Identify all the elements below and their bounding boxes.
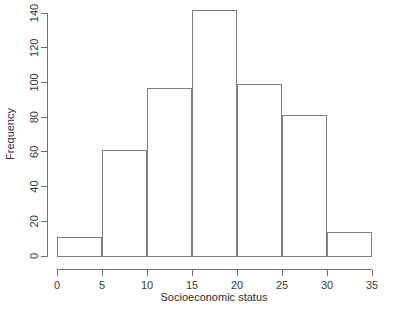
x-tick-label: 15 <box>186 279 198 291</box>
y-tick-label: 0 <box>28 253 40 259</box>
histogram-bars <box>57 10 372 256</box>
x-axis-tick-labels: 05101520253035 <box>54 279 378 291</box>
histogram-figure: 020406080100120140 Frequency 05101520253… <box>0 0 393 311</box>
x-axis-ticks <box>57 270 372 277</box>
x-tick-label: 30 <box>321 279 333 291</box>
y-tick-label: 120 <box>28 39 40 57</box>
x-tick-label: 5 <box>99 279 105 291</box>
histogram-bar <box>148 88 192 256</box>
x-axis-title: Socioeconomic status <box>161 291 268 303</box>
histogram-bar <box>238 85 282 256</box>
x-tick-label: 10 <box>141 279 153 291</box>
histogram-bar <box>58 237 102 256</box>
histogram-bar <box>103 151 147 256</box>
y-tick-label: 100 <box>28 73 40 91</box>
y-axis: 020406080100120140 Frequency <box>4 4 48 259</box>
y-tick-label: 40 <box>28 180 40 192</box>
x-tick-label: 20 <box>231 279 243 291</box>
y-tick-label: 20 <box>28 215 40 227</box>
histogram-bar <box>328 232 372 256</box>
y-tick-label: 60 <box>28 146 40 158</box>
x-tick-label: 25 <box>276 279 288 291</box>
y-tick-label: 80 <box>28 111 40 123</box>
y-tick-label: 140 <box>28 4 40 22</box>
y-axis-tick-labels: 020406080100120140 <box>28 4 40 259</box>
histogram-plot-area: 020406080100120140 Frequency 05101520253… <box>0 0 393 311</box>
x-tick-label: 0 <box>54 279 60 291</box>
y-axis-ticks <box>41 13 48 256</box>
histogram-bar <box>193 10 237 256</box>
x-tick-label: 35 <box>366 279 378 291</box>
y-axis-title: Frequency <box>4 108 16 160</box>
x-axis: 05101520253035 Socioeconomic status <box>54 270 378 304</box>
histogram-bar <box>283 116 327 256</box>
